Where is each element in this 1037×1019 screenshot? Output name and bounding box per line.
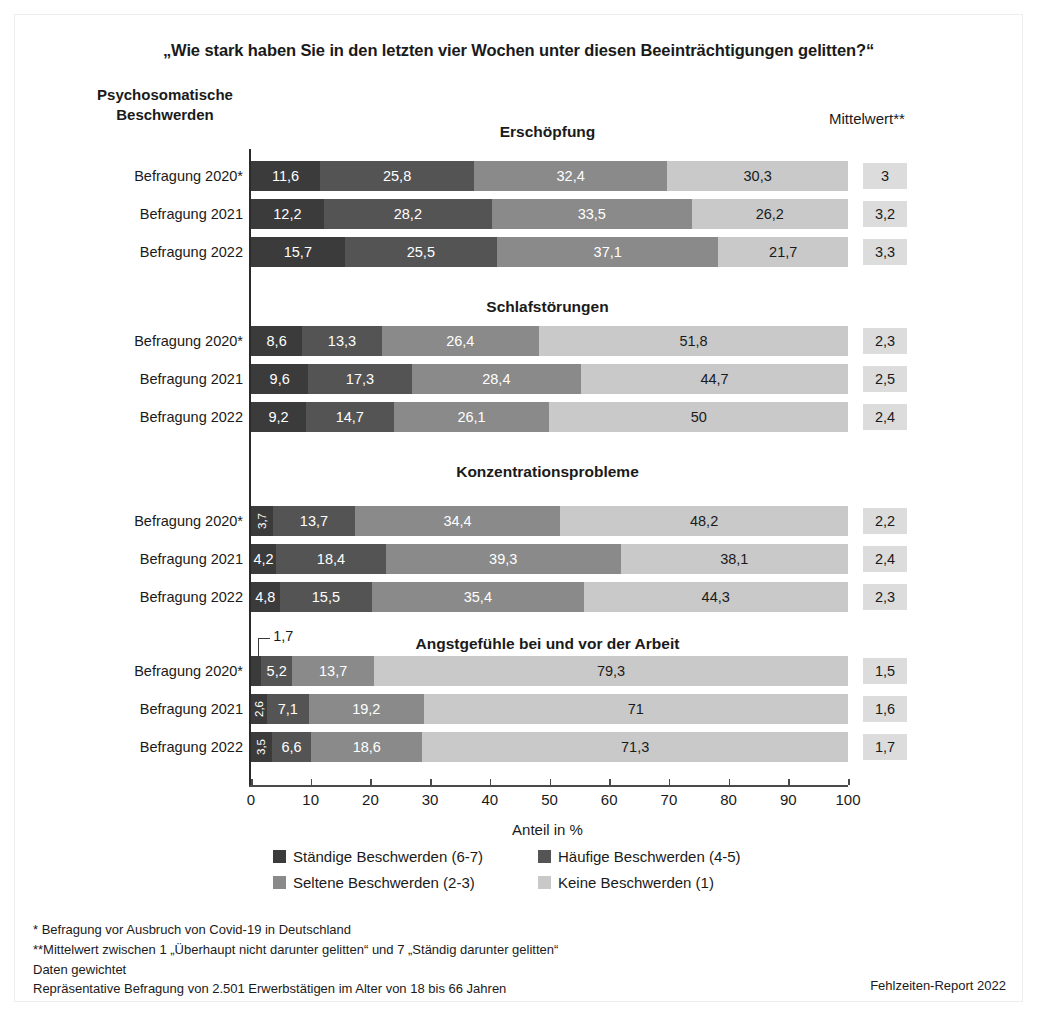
bar-segment-value: 28,4 (482, 371, 510, 387)
bar-segment-value: 28,2 (394, 206, 422, 222)
mean-value-box: 2,3 (863, 328, 907, 354)
bar-segment-value: 39,3 (489, 551, 517, 567)
footnote-line: Repräsentative Befragung von 2.501 Erwer… (33, 979, 1008, 999)
bar-segment-value: 38,1 (720, 551, 748, 567)
x-axis-tick (848, 779, 850, 785)
bar-segment-value: 79,3 (597, 663, 625, 679)
x-axis-tick (430, 779, 432, 785)
callout-value: 1,7 (273, 628, 293, 644)
bar-segment: 50 (549, 402, 848, 432)
stacked-bar: 2,67,119,271 (251, 694, 848, 724)
bar-segment: 51,8 (539, 326, 848, 356)
legend-swatch-icon (273, 876, 286, 889)
legend-item[interactable]: Keine Beschwerden (1) (538, 874, 714, 891)
x-axis-tick (729, 779, 731, 785)
legend-label: Keine Beschwerden (1) (558, 874, 714, 891)
bar-segment-value: 9,2 (268, 409, 288, 425)
chart-row-label: Befragung 2020* (51, 506, 243, 536)
x-axis-tick-label: 100 (835, 791, 860, 808)
bar-segment-value: 2,6 (253, 701, 265, 717)
bar-segment-value: 14,7 (336, 409, 364, 425)
bar-segment: 25,5 (345, 237, 497, 267)
mean-value-box: 3 (863, 163, 907, 189)
mean-value: 3 (881, 168, 889, 184)
mean-value: 2,3 (875, 589, 895, 605)
bar-segment: 44,7 (581, 364, 848, 394)
bar-segment-value: 4,2 (253, 551, 273, 567)
mean-value-box: 1,7 (863, 734, 907, 760)
legend-item[interactable]: Seltene Beschwerden (2-3) (273, 874, 538, 891)
chart-group-title: Schlafstörungen (249, 298, 846, 316)
mean-value: 1,5 (875, 663, 895, 679)
mean-value-box: 2,3 (863, 584, 907, 610)
bar-segment-value: 7,1 (278, 701, 298, 717)
x-axis-tick (490, 779, 492, 785)
x-axis-tick-label: 40 (481, 791, 498, 808)
bar-segment-value: 44,3 (702, 589, 730, 605)
source-credit: Fehlzeiten-Report 2022 (870, 978, 1006, 993)
bar-segment-value: 37,1 (594, 244, 622, 260)
bar-segment-value: 15,5 (312, 589, 340, 605)
bar-segment-value: 71,3 (621, 739, 649, 755)
bar-segment: 11,6 (251, 161, 320, 191)
bar-segment-value: 18,6 (353, 739, 381, 755)
mean-value: 2,4 (875, 409, 895, 425)
x-axis-tick-label: 80 (720, 791, 737, 808)
chart-row-label: Befragung 2020* (51, 656, 243, 686)
bar-segment-value: 71 (628, 701, 644, 717)
bar-segment: 13,7 (292, 656, 374, 686)
bar-segment-value: 30,3 (744, 168, 772, 184)
bar-segment: 15,5 (280, 582, 373, 612)
bar-segment: 13,7 (273, 506, 355, 536)
mean-value: 1,7 (875, 739, 895, 755)
bar-segment: 12,2 (251, 199, 324, 229)
mean-value-box: 2,4 (863, 546, 907, 572)
stacked-bar: 9,617,328,444,7 (251, 364, 848, 394)
bar-segment-value: 13,7 (300, 513, 328, 529)
mean-value: 2,3 (875, 333, 895, 349)
bar-segment-value: 32,4 (557, 168, 585, 184)
bar-segment: 28,4 (412, 364, 582, 394)
x-axis-tick (550, 779, 552, 785)
x-axis-tick-label: 50 (541, 791, 558, 808)
chart-row-label: Befragung 2021 (51, 199, 243, 229)
bar-segment: 5,2 (261, 656, 292, 686)
chart-row-label: Befragung 2020* (51, 326, 243, 356)
bar-segment-value: 51,8 (679, 333, 707, 349)
bar-segment-value: 6,6 (282, 739, 302, 755)
bar-segment: 34,4 (355, 506, 560, 536)
bar-segment: 21,7 (718, 237, 848, 267)
bar-segment: 38,1 (621, 544, 848, 574)
stacked-bar: 4,815,535,444,3 (251, 582, 848, 612)
bar-segment: 14,7 (306, 402, 394, 432)
mean-value-box: 1,5 (863, 658, 907, 684)
bar-segment: 9,2 (251, 402, 306, 432)
chart-row-label: Befragung 2021 (51, 364, 243, 394)
bar-segment-value: 17,3 (346, 371, 374, 387)
legend-item[interactable]: Ständige Beschwerden (6-7) (273, 848, 538, 865)
bar-segment: 32,4 (474, 161, 667, 191)
legend-item[interactable]: Häufige Beschwerden (4-5) (538, 848, 741, 865)
bar-segment: 18,6 (311, 732, 422, 762)
bar-segment-value: 19,2 (352, 701, 380, 717)
bar-segment-value: 25,8 (383, 168, 411, 184)
legend-row: Seltene Beschwerden (2-3)Keine Beschwerd… (273, 874, 873, 891)
legend-swatch-icon (273, 850, 286, 863)
stacked-bar: 4,218,439,338,1 (251, 544, 848, 574)
bar-segment-value: 21,7 (769, 244, 797, 260)
bar-segment-value: 34,4 (443, 513, 471, 529)
bar-segment: 4,8 (251, 582, 280, 612)
bar-segment: 13,3 (302, 326, 381, 356)
chart-group-title: Angstgefühle bei und vor der Arbeit (249, 635, 846, 653)
bar-segment: 17,3 (308, 364, 411, 394)
footnote-line: **Mittelwert zwischen 1 „Überhaupt nicht… (33, 940, 1008, 960)
mean-value: 3,3 (875, 244, 895, 260)
bar-segment: 39,3 (386, 544, 621, 574)
bar-segment: 7,1 (267, 694, 309, 724)
bar-segment: 26,4 (382, 326, 539, 356)
bar-segment-value: 12,2 (273, 206, 301, 222)
chart-row-label: Befragung 2022 (51, 732, 243, 762)
bar-segment: 8,6 (251, 326, 302, 356)
x-axis-tick-label: 0 (247, 791, 255, 808)
mean-value-box: 1,6 (863, 696, 907, 722)
